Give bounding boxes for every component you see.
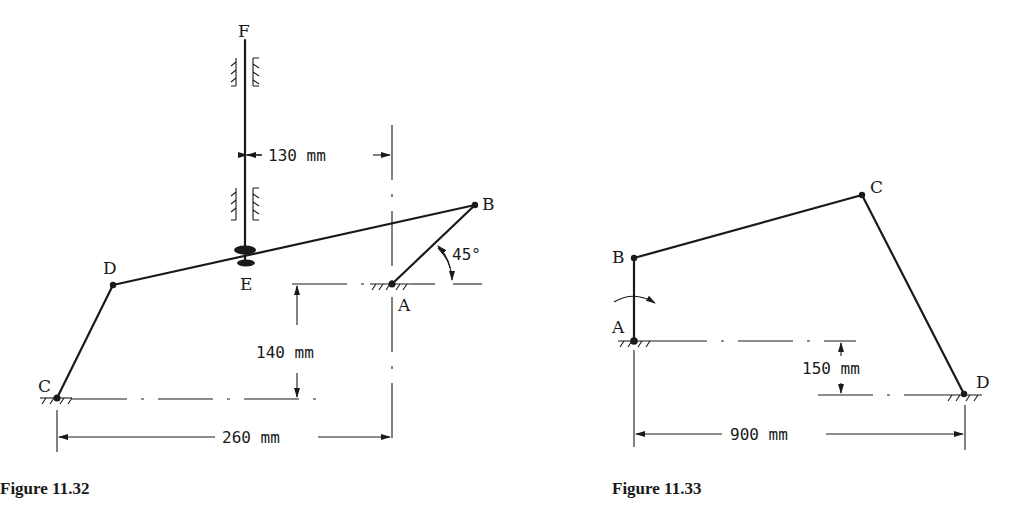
figure-11-33: 150 mm 900 mm B C A D Figure 11.33 bbox=[611, 177, 990, 498]
joint-B bbox=[472, 202, 478, 208]
label-C: C bbox=[38, 376, 51, 396]
figure-11-32: 130 mm 45° 140 mm 260 mm F B D E A C Fig… bbox=[0, 21, 495, 498]
label-D: D bbox=[976, 372, 990, 392]
coupler-BC bbox=[634, 195, 862, 258]
angle-45: 45° bbox=[438, 245, 481, 280]
dimension-140: 140 mm bbox=[256, 286, 314, 397]
label-D: D bbox=[103, 258, 117, 278]
label-E: E bbox=[240, 274, 252, 294]
dim-label-45deg: 45° bbox=[452, 245, 481, 264]
dim-label-140: 140 mm bbox=[256, 343, 314, 362]
caption-figure-11-33: Figure 11.33 bbox=[612, 479, 701, 498]
dim-label-900: 900 mm bbox=[730, 425, 788, 444]
link-DB bbox=[113, 205, 475, 285]
dim-label-260: 260 mm bbox=[222, 428, 280, 447]
dim-label-130: 130 mm bbox=[268, 146, 326, 165]
label-A: A bbox=[611, 317, 625, 337]
pivot-D bbox=[961, 391, 967, 397]
label-B: B bbox=[482, 194, 495, 214]
label-B: B bbox=[612, 247, 625, 267]
label-F: F bbox=[238, 21, 250, 41]
dim-label-150: 150 mm bbox=[802, 359, 860, 378]
dimension-130: 130 mm bbox=[247, 146, 390, 165]
joint-C bbox=[859, 192, 865, 198]
diagram-canvas: 130 mm 45° 140 mm 260 mm F B D E A C Fig… bbox=[0, 0, 1025, 508]
rocker-CD bbox=[862, 195, 964, 394]
caption-figure-11-32: Figure 11.32 bbox=[0, 479, 89, 498]
label-A: A bbox=[397, 295, 411, 315]
joint-B bbox=[631, 255, 637, 261]
joint-D bbox=[110, 282, 116, 288]
link-CD bbox=[57, 285, 113, 398]
dimension-150: 150 mm bbox=[802, 343, 860, 393]
dimension-260: 260 mm bbox=[57, 410, 390, 452]
figures-svg: 130 mm 45° 140 mm 260 mm F B D E A C Fig… bbox=[0, 0, 1025, 508]
dimension-900: 900 mm bbox=[636, 425, 963, 444]
label-C: C bbox=[870, 177, 883, 197]
